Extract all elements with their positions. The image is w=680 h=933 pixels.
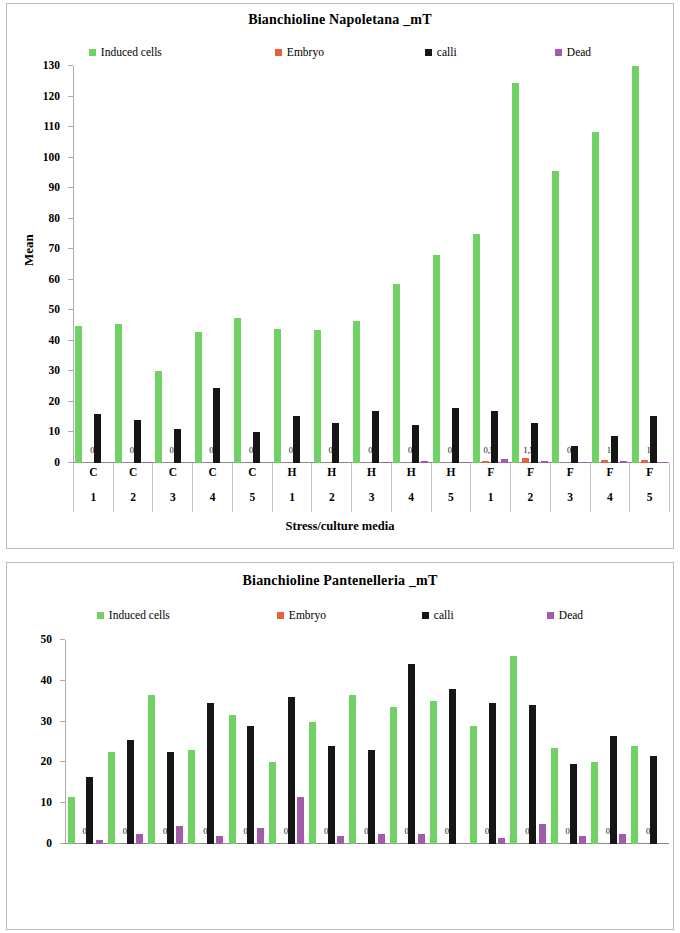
bar-calli[interactable] — [570, 764, 577, 844]
bar-calli[interactable] — [611, 436, 618, 463]
bar-induced-cells[interactable] — [631, 746, 638, 844]
bar-data-label: 0 — [284, 826, 288, 836]
bar-induced-cells[interactable] — [314, 330, 321, 463]
bar-induced-cells[interactable] — [309, 722, 316, 844]
bar-calli[interactable] — [372, 411, 379, 463]
bar-induced-cells[interactable] — [552, 171, 559, 463]
bar-dead[interactable] — [337, 836, 344, 844]
chart-title: Bianchioline Pantenelleria _mT — [7, 573, 673, 589]
bar-induced-cells[interactable] — [591, 762, 598, 844]
legend-item-embryo[interactable]: Embryo — [277, 609, 422, 621]
bar-induced-cells[interactable] — [234, 318, 241, 463]
bar-induced-cells[interactable] — [470, 726, 477, 844]
bar-calli[interactable] — [134, 420, 141, 463]
bar-induced-cells[interactable] — [390, 707, 397, 844]
bar-calli[interactable] — [491, 411, 498, 463]
bar-calli[interactable] — [650, 416, 657, 463]
bar-calli[interactable] — [127, 740, 134, 844]
bar-calli[interactable] — [86, 777, 93, 844]
bar-induced-cells[interactable] — [393, 284, 400, 463]
legend-item-dead[interactable]: Dead — [555, 46, 591, 58]
legend-item-calli[interactable]: calli — [422, 609, 547, 621]
bar-calli[interactable] — [167, 752, 174, 844]
bar-calli[interactable] — [449, 689, 456, 844]
bar-data-label: 0 — [485, 826, 489, 836]
bar-dead[interactable] — [619, 834, 626, 844]
bar-dead[interactable] — [418, 834, 425, 844]
bar-induced-cells[interactable] — [148, 695, 155, 844]
bar-induced-cells[interactable] — [510, 656, 517, 844]
bar-induced-cells[interactable] — [512, 83, 519, 463]
x-axis-category-letter: F — [646, 466, 653, 478]
bar-calli[interactable] — [531, 423, 538, 463]
bar-calli[interactable] — [610, 736, 617, 844]
bar-induced-cells[interactable] — [430, 701, 437, 844]
legend-item-embryo[interactable]: Embryo — [275, 46, 425, 58]
x-axis-category-labels: C1C2C3C4C5H1H2H3H4H5F1F2F3F4F5 — [73, 463, 669, 512]
bar-dead[interactable] — [96, 840, 103, 844]
bar-data-label: 0 — [130, 445, 134, 455]
bar-calli[interactable] — [452, 408, 459, 463]
bar-induced-cells[interactable] — [269, 762, 276, 844]
bar-dead[interactable] — [579, 836, 586, 844]
bar-induced-cells[interactable] — [195, 332, 202, 463]
bar-calli[interactable] — [207, 703, 214, 844]
bar-dead[interactable] — [539, 824, 546, 844]
bar-dead[interactable] — [378, 834, 385, 844]
bar-induced-cells[interactable] — [108, 752, 115, 844]
bar-induced-cells[interactable] — [551, 748, 558, 844]
bar-data-label: 1 — [607, 445, 611, 455]
bar-dead[interactable] — [136, 834, 143, 844]
y-axis-tick-label: 100 — [43, 151, 60, 163]
bar-calli[interactable] — [247, 726, 254, 844]
legend-item-calli[interactable]: calli — [425, 46, 555, 58]
bar-calli[interactable] — [332, 423, 339, 463]
y-axis-tick-label: 110 — [43, 120, 60, 132]
bar-calli[interactable] — [412, 425, 419, 463]
bar-dead[interactable] — [257, 828, 264, 844]
bar-dead[interactable] — [216, 836, 223, 844]
bar-calli[interactable] — [288, 697, 295, 844]
bar-calli[interactable] — [571, 446, 578, 463]
bar-series-container: 00000000000,51,5011 — [73, 66, 669, 463]
bar-induced-cells[interactable] — [592, 132, 599, 463]
bar-calli[interactable] — [489, 703, 496, 844]
bar-group: 0 — [431, 66, 471, 463]
bar-dead[interactable] — [176, 826, 183, 844]
bar-induced-cells[interactable] — [274, 329, 281, 463]
x-axis-category-cell: H3 — [351, 463, 392, 512]
bar-induced-cells[interactable] — [349, 695, 356, 844]
bar-induced-cells[interactable] — [473, 234, 480, 463]
legend-item-induced-cells[interactable]: Induced cells — [89, 46, 275, 58]
bar-group: 0 — [351, 66, 391, 463]
bar-calli[interactable] — [529, 705, 536, 844]
bar-induced-cells[interactable] — [433, 255, 440, 463]
bar-calli[interactable] — [368, 750, 375, 844]
bar-dead[interactable] — [297, 797, 304, 844]
legend-item-dead[interactable]: Dead — [547, 609, 583, 621]
bar-calli[interactable] — [328, 746, 335, 844]
bar-induced-cells[interactable] — [229, 715, 236, 844]
bar-calli[interactable] — [94, 414, 101, 463]
bar-dead[interactable] — [498, 838, 505, 844]
y-axis-tick-label: 70 — [49, 242, 61, 254]
bar-group: 0 — [226, 640, 266, 844]
bar-induced-cells[interactable] — [632, 66, 639, 463]
bar-induced-cells[interactable] — [68, 797, 75, 844]
y-axis-tick-label: 10 — [41, 796, 53, 808]
bar-induced-cells[interactable] — [115, 324, 122, 463]
bar-calli[interactable] — [253, 432, 260, 463]
bar-induced-cells[interactable] — [188, 750, 195, 844]
bar-calli[interactable] — [650, 756, 657, 844]
x-axis-category-letter: C — [169, 466, 177, 478]
chart-panel-napoletana: Bianchioline Napoletana _mT Induced cell… — [6, 3, 674, 549]
x-axis-category-cell: H1 — [272, 463, 313, 512]
bar-induced-cells[interactable] — [353, 321, 360, 463]
bar-calli[interactable] — [174, 429, 181, 463]
bar-calli[interactable] — [293, 416, 300, 463]
legend-item-induced-cells[interactable]: Induced cells — [97, 609, 277, 621]
bar-induced-cells[interactable] — [75, 326, 82, 463]
bar-calli[interactable] — [213, 388, 220, 463]
bar-induced-cells[interactable] — [155, 371, 162, 463]
bar-calli[interactable] — [408, 664, 415, 844]
